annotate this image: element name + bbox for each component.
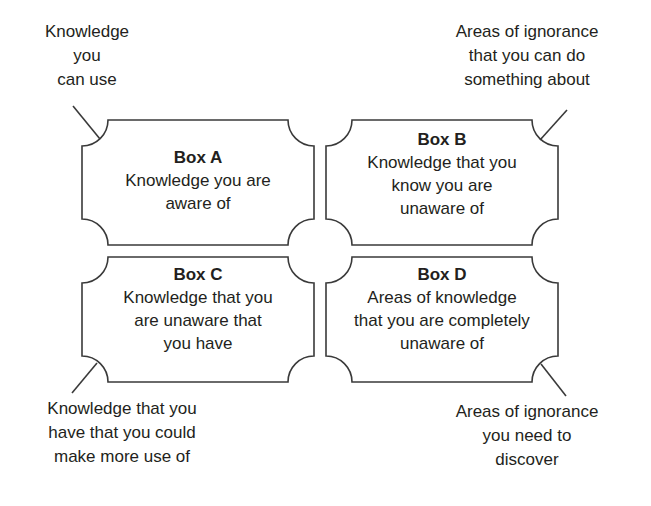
callout-top-left-line-3: can use <box>22 68 152 92</box>
box-b-line-2: know you are <box>326 174 558 197</box>
box-d-line-1: Areas of knowledge <box>326 286 558 309</box>
box-a-line-1: Knowledge you are <box>82 169 314 192</box>
box-b-line-1: Knowledge that you <box>326 151 558 174</box>
callout-bottom-right-line-2: you need to <box>432 424 622 448</box>
box-d-title: Box D <box>326 263 558 286</box>
box-d-line-3: unaware of <box>326 332 558 355</box>
box-c-line-2: are unaware that <box>82 309 314 332</box>
box-b: Box B Knowledge that you know you are un… <box>326 128 558 220</box>
box-a-line-2: aware of <box>82 192 314 215</box>
box-c-title: Box C <box>82 263 314 286</box>
callout-bottom-right-line-1: Areas of ignorance <box>432 400 622 424</box>
box-d: Box D Areas of knowledge that you are co… <box>326 263 558 355</box>
callout-top-right-line-3: something about <box>432 68 622 92</box>
box-c: Box C Knowledge that you are unaware tha… <box>82 263 314 355</box>
box-a: Box A Knowledge you are aware of <box>82 146 314 215</box>
callout-bottom-right-line-3: discover <box>432 448 622 472</box>
leader-line-top-left <box>73 106 100 139</box>
callout-top-right-line-2: that you can do <box>432 44 622 68</box>
box-d-line-2: that you are completely <box>326 309 558 332</box>
callout-bottom-right: Areas of ignorance you need to discover <box>432 400 622 472</box>
callout-bottom-left: Knowledge that you have that you could m… <box>22 397 222 469</box>
callout-bottom-left-line-1: Knowledge that you <box>22 397 222 421</box>
callout-top-left-line-2: you <box>22 44 152 68</box>
callout-top-left: Knowledge you can use <box>22 20 152 92</box>
leader-line-bottom-left <box>72 363 97 393</box>
box-c-line-1: Knowledge that you <box>82 286 314 309</box>
callout-top-left-line-1: Knowledge <box>22 20 152 44</box>
callout-top-right-line-1: Areas of ignorance <box>432 20 622 44</box>
leader-line-bottom-right <box>541 364 566 396</box>
box-a-title: Box A <box>82 146 314 169</box>
callout-top-right: Areas of ignorance that you can do somet… <box>432 20 622 92</box>
box-b-title: Box B <box>326 128 558 151</box>
box-c-line-3: you have <box>82 332 314 355</box>
box-b-line-3: unaware of <box>326 197 558 220</box>
callout-bottom-left-line-3: make more use of <box>22 445 222 469</box>
callout-bottom-left-line-2: have that you could <box>22 421 222 445</box>
